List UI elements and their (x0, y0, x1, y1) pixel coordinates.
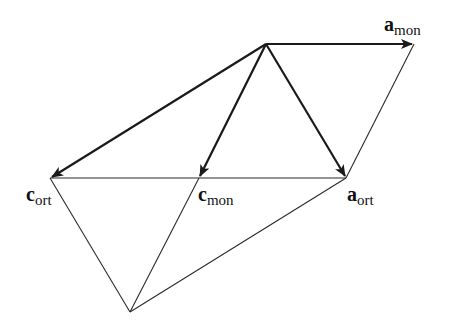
edge-c-mon-to-bottom (130, 178, 199, 312)
label-a-mon-main: a (384, 13, 394, 35)
label-a-mon-sub: mon (394, 22, 421, 38)
label-c-ort-main: c (26, 183, 35, 205)
edge-a-mon-to-a-ort (346, 44, 414, 178)
lattice-diagram (0, 0, 452, 325)
label-c-ort-sub: ort (35, 192, 52, 208)
label-c-ort: cort (26, 184, 52, 204)
edge-c-ort-to-bottom (50, 178, 130, 312)
label-c-mon-sub: mon (207, 192, 234, 208)
label-c-mon-main: c (198, 183, 207, 205)
label-a-ort-main: a (347, 183, 357, 205)
label-a-mon: amon (384, 14, 421, 34)
edge-a-ort-to-bottom (130, 178, 346, 312)
label-c-mon: cmon (198, 184, 234, 204)
label-a-ort-sub: ort (357, 192, 374, 208)
vector-a-ort (266, 44, 345, 176)
label-a-ort: aort (347, 184, 374, 204)
